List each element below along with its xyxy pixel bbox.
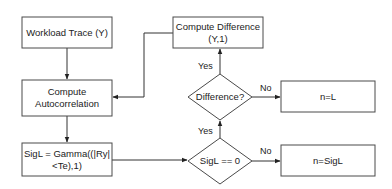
node-compute-difference-line1: Compute Difference [176,21,260,32]
node-compute-autocorrelation: Compute Autocorrelation [22,80,112,116]
node-n-equals-sigl-label: n=SigL [313,155,343,166]
node-sigl-gamma-line1: SigL = Gamma((|Ry| [24,148,110,159]
node-compute-autocorrelation-line1: Compute [48,86,87,97]
node-sigl-gamma-line2: <Te),1) [52,160,82,171]
node-compute-autocorrelation-line2: Autocorrelation [35,98,99,109]
flowchart-canvas: Yes No Yes No Workload Trace (Y) Compute… [0,0,392,189]
node-workload-trace: Workload Trace (Y) [22,17,112,48]
node-difference-decision-label: Difference? [196,91,244,102]
edge-label-yes-lower: Yes [198,126,213,136]
node-workload-trace-label: Workload Trace (Y) [26,27,108,38]
node-compute-difference: Compute Difference (Y,1) [173,17,263,48]
node-difference-decision: Difference? [188,74,252,120]
edge-label-yes-upper: Yes [198,61,213,71]
edge-label-no-upper: No [260,83,272,93]
edge-label-no-lower: No [260,146,272,156]
node-sigl-zero-decision-label: SigL == 0 [200,155,240,166]
node-n-equals-l-label: n=L [320,91,336,102]
edge-compute-difference-to-autocorrelation [113,33,173,97]
node-n-equals-sigl: n=SigL [281,145,375,176]
node-sigl-zero-decision: SigL == 0 [188,138,252,184]
node-compute-difference-line2: (Y,1) [208,33,227,44]
node-n-equals-l: n=L [281,81,375,112]
node-sigl-gamma: SigL = Gamma((|Ry| <Te),1) [22,143,112,176]
